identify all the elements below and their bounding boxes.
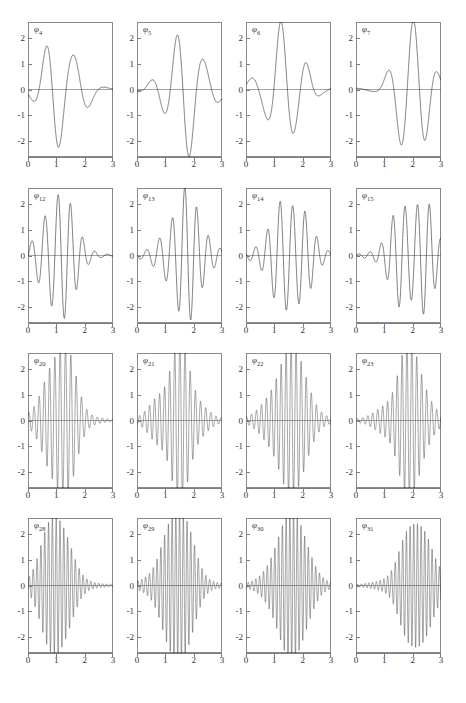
y-tick-label: -1 <box>18 276 26 286</box>
y-tick-label: -2 <box>236 632 244 642</box>
y-tick-label: -1 <box>127 441 135 451</box>
x-axis-line <box>137 323 222 324</box>
waveform-plot <box>356 188 441 323</box>
y-tick-mark <box>356 204 360 205</box>
x-axis-line <box>246 323 331 324</box>
y-tick-label: -2 <box>346 467 354 477</box>
waveform-plot <box>28 353 113 488</box>
x-tick-label: 1 <box>272 159 277 169</box>
y-tick-label: 0 <box>21 85 26 95</box>
x-tick-label: 3 <box>220 655 225 665</box>
x-tick-label: 2 <box>191 159 196 169</box>
y-tick-mark <box>246 421 250 422</box>
y-tick-mark <box>246 395 250 396</box>
y-tick-mark <box>246 90 250 91</box>
y-tick-mark <box>356 472 360 473</box>
y-tick-label: 1 <box>21 555 26 565</box>
x-tick-label: 0 <box>244 325 249 335</box>
waveform-plot <box>28 188 113 323</box>
x-tick-label: 1 <box>54 325 59 335</box>
y-tick-label: 1 <box>130 225 135 235</box>
y-tick-mark <box>28 637 32 638</box>
x-tick-label: 1 <box>54 490 59 500</box>
y-tick-label: -2 <box>346 632 354 642</box>
x-tick-label: 0 <box>244 159 249 169</box>
y-tick-mark <box>137 307 141 308</box>
y-tick-mark <box>28 38 32 39</box>
y-tick-mark <box>137 38 141 39</box>
phi-subscript: 6 <box>257 29 260 36</box>
x-axis-line <box>356 323 441 324</box>
y-tick-label: 2 <box>239 364 244 374</box>
y-tick-mark <box>356 586 360 587</box>
plot-panel-phi-31: φ31210-1-20123 <box>356 518 441 653</box>
y-tick-mark <box>137 64 141 65</box>
phi-subscript: 22 <box>257 360 264 367</box>
y-tick-mark <box>137 637 141 638</box>
y-tick-label: 1 <box>21 390 26 400</box>
y-tick-mark <box>28 369 32 370</box>
y-tick-label: 0 <box>349 85 354 95</box>
y-tick-mark <box>356 307 360 308</box>
y-tick-label: 1 <box>21 59 26 69</box>
phi-subscript: 13 <box>148 195 155 202</box>
y-tick-label: 0 <box>349 581 354 591</box>
y-tick-mark <box>246 560 250 561</box>
y-tick-label: 1 <box>349 555 354 565</box>
y-tick-label: 1 <box>239 225 244 235</box>
x-tick-label: 2 <box>82 490 87 500</box>
x-axis-line <box>28 488 113 489</box>
x-axis-line <box>137 653 222 654</box>
x-tick-label: 1 <box>382 655 387 665</box>
y-tick-label: 2 <box>349 33 354 43</box>
y-tick-mark <box>137 421 141 422</box>
y-tick-mark <box>356 395 360 396</box>
x-tick-label: 0 <box>26 655 31 665</box>
y-tick-mark <box>28 256 32 257</box>
x-tick-label: 0 <box>354 325 359 335</box>
y-tick-mark <box>356 560 360 561</box>
y-tick-mark <box>137 369 141 370</box>
y-tick-mark <box>28 586 32 587</box>
x-tick-label: 2 <box>300 325 305 335</box>
waveform-plot <box>137 188 222 323</box>
y-tick-mark <box>356 637 360 638</box>
panel-label-phi-7: φ7 <box>362 25 370 36</box>
y-tick-mark <box>137 586 141 587</box>
y-tick-label: 0 <box>239 251 244 261</box>
y-tick-mark <box>28 141 32 142</box>
y-tick-mark <box>356 281 360 282</box>
x-tick-label: 0 <box>26 325 31 335</box>
y-tick-label: -1 <box>236 110 244 120</box>
panel-label-phi-6: φ6 <box>252 25 260 36</box>
y-tick-mark <box>137 611 141 612</box>
panel-label-phi-20: φ20 <box>34 356 45 367</box>
panel-label-phi-31: φ31 <box>362 521 373 532</box>
y-tick-mark <box>356 534 360 535</box>
y-tick-label: -2 <box>236 467 244 477</box>
x-tick-label: 0 <box>244 655 249 665</box>
y-tick-mark <box>137 472 141 473</box>
y-tick-label: -1 <box>127 110 135 120</box>
phi-subscript: 30 <box>257 525 264 532</box>
y-tick-mark <box>28 281 32 282</box>
y-tick-mark <box>356 611 360 612</box>
y-tick-label: -2 <box>236 302 244 312</box>
x-tick-label: 2 <box>191 655 196 665</box>
panel-label-phi-28: φ28 <box>34 521 45 532</box>
x-tick-label: 3 <box>439 325 444 335</box>
panel-label-phi-21: φ21 <box>143 356 154 367</box>
y-tick-mark <box>356 141 360 142</box>
plot-panel-phi-13: φ13210-1-20123 <box>137 188 222 323</box>
phi-subscript: 12 <box>39 195 46 202</box>
y-tick-mark <box>28 611 32 612</box>
x-tick-label: 3 <box>111 490 116 500</box>
y-tick-mark <box>246 64 250 65</box>
y-tick-label: 2 <box>130 529 135 539</box>
y-tick-mark <box>28 472 32 473</box>
y-tick-label: 1 <box>349 59 354 69</box>
plot-panel-phi-7: φ7210-1-20123 <box>356 22 441 157</box>
y-tick-label: -2 <box>346 302 354 312</box>
y-tick-label: -2 <box>127 632 135 642</box>
waveform-plot <box>246 353 331 488</box>
